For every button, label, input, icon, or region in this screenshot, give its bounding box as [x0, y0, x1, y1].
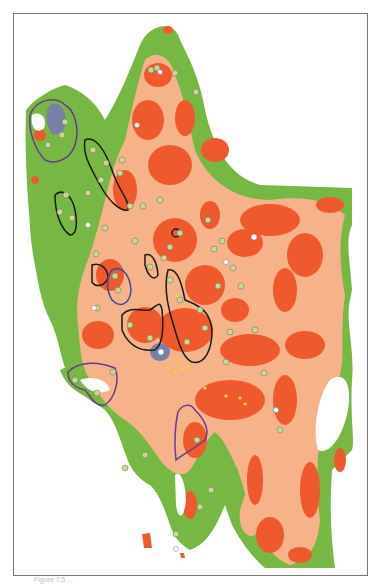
map-canvas [0, 0, 379, 584]
figure-caption: Figure 7.5 ... [34, 576, 73, 583]
